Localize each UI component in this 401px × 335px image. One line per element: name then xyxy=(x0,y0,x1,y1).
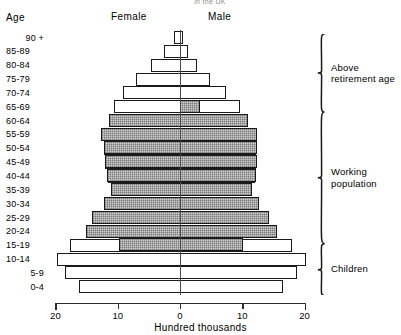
age-label: 10-14 xyxy=(6,254,54,264)
bracket xyxy=(317,34,326,112)
bracket xyxy=(317,244,326,295)
working-population-segment xyxy=(104,141,181,154)
chart-top-title: in the UK xyxy=(150,0,270,5)
center-axis-line xyxy=(180,30,181,295)
population-pyramid-chart: in the UK Age Female Male 90 +85-8980-84… xyxy=(0,0,401,335)
age-label: 25-29 xyxy=(6,213,54,223)
working-population-segment xyxy=(104,197,181,210)
pyramid-bar xyxy=(164,45,188,58)
x-tick-label: 0 xyxy=(177,310,182,321)
working-population-segment xyxy=(119,238,181,251)
pyramid-bar xyxy=(57,253,306,266)
age-label: 55-59 xyxy=(6,129,54,139)
working-population-segment xyxy=(109,114,181,127)
pyramid-bar xyxy=(108,170,255,183)
pyramid-bar xyxy=(174,31,183,44)
working-population-segment xyxy=(180,238,243,251)
working-population-segment xyxy=(111,183,181,196)
age-label: 0-4 xyxy=(4,282,44,292)
pyramid-bar xyxy=(102,128,257,141)
bracket-label: Above retirement age xyxy=(331,62,395,85)
x-tick xyxy=(180,303,181,309)
working-population-segment xyxy=(180,141,257,154)
pyramid-bar xyxy=(104,197,259,210)
working-population-segment xyxy=(180,225,277,238)
age-label: 15-19 xyxy=(6,240,54,250)
x-tick xyxy=(118,303,119,309)
age-label: 90 + xyxy=(4,33,44,43)
pyramid-bar xyxy=(87,225,276,238)
age-label: 75-79 xyxy=(6,74,54,84)
working-population-segment xyxy=(105,155,181,168)
x-tick-label: 10 xyxy=(237,310,248,321)
working-population-segment xyxy=(180,183,252,196)
x-axis-label: Hundred thousands xyxy=(0,322,401,333)
pyramid-bar xyxy=(114,100,240,113)
working-population-segment xyxy=(180,114,249,127)
working-population-segment xyxy=(86,225,181,238)
pyramid-bar xyxy=(109,114,247,127)
working-population-segment xyxy=(180,169,256,182)
age-label: 20-24 xyxy=(6,226,54,236)
age-label: 70-74 xyxy=(6,88,54,98)
x-tick xyxy=(242,303,243,309)
pyramid-bar xyxy=(79,280,283,293)
bracket-label: Working population xyxy=(331,166,377,189)
pyramid-bar xyxy=(70,239,292,252)
age-label: 40-44 xyxy=(6,171,54,181)
age-label: 5-9 xyxy=(4,268,44,278)
age-label: 45-49 xyxy=(6,157,54,167)
age-label: 35-39 xyxy=(6,185,54,195)
working-population-segment xyxy=(180,100,201,113)
working-population-segment xyxy=(180,128,257,141)
age-label: 60-64 xyxy=(6,116,54,126)
working-population-segment xyxy=(101,128,181,141)
age-label: 30-34 xyxy=(6,199,54,209)
age-label: 65-69 xyxy=(6,102,54,112)
pyramid-bar xyxy=(123,86,226,99)
working-population-segment xyxy=(92,211,181,224)
age-column-header: Age xyxy=(6,12,25,23)
x-tick-label: 20 xyxy=(299,310,310,321)
age-label: 80-84 xyxy=(6,60,54,70)
pyramid-bar xyxy=(136,73,210,86)
working-population-segment xyxy=(180,155,257,168)
x-tick xyxy=(305,303,306,310)
pyramid-bar xyxy=(151,59,197,72)
working-population-segment xyxy=(180,211,270,224)
x-tick xyxy=(55,303,56,310)
female-column-header: Female xyxy=(111,11,147,22)
bracket xyxy=(317,112,326,244)
bracket-label: Children xyxy=(331,263,368,275)
male-column-header: Male xyxy=(208,11,231,22)
pyramid-bar xyxy=(65,266,297,279)
age-label: 85-89 xyxy=(6,46,54,56)
working-population-segment xyxy=(180,197,260,210)
working-population-segment xyxy=(107,169,181,182)
age-label: 50-54 xyxy=(6,143,54,153)
x-tick-label: 10 xyxy=(112,310,123,321)
pyramid-bar xyxy=(111,183,251,196)
x-tick-label: 20 xyxy=(50,310,61,321)
